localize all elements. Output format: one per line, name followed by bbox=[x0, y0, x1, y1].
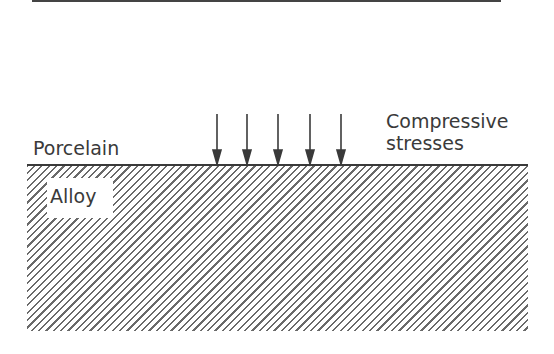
down-arrow-icon bbox=[274, 114, 282, 164]
down-arrow-icon bbox=[243, 114, 251, 164]
stress-arrows bbox=[0, 0, 554, 354]
down-arrow-icon bbox=[337, 114, 345, 164]
down-arrow-icon bbox=[306, 114, 314, 164]
down-arrow-icon bbox=[213, 114, 221, 164]
